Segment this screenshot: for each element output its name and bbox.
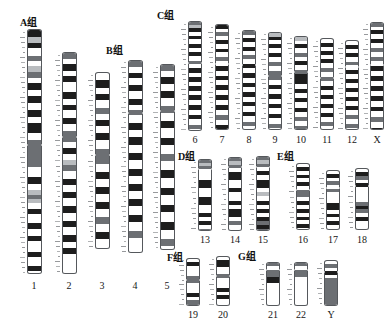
chromosome-22[interactable] <box>294 262 308 306</box>
chromosome-number-12: 12 <box>339 134 365 145</box>
centromere-notch-left <box>241 63 243 67</box>
band <box>63 105 76 111</box>
chromosome-4[interactable] <box>128 60 143 253</box>
band <box>189 77 201 82</box>
band <box>96 172 109 179</box>
band <box>243 73 255 77</box>
chromosome-1[interactable] <box>27 29 42 274</box>
chromosome-10[interactable] <box>294 36 308 130</box>
chromosome-8[interactable] <box>242 30 256 130</box>
band <box>189 105 201 109</box>
centromere-notch-left <box>215 274 217 278</box>
band-label-column <box>258 262 264 306</box>
ideogram-body <box>256 156 270 231</box>
band-label-column <box>120 60 126 253</box>
centromere-notch-right <box>269 165 271 169</box>
chromosome-3[interactable] <box>95 72 110 249</box>
chromosome-2[interactable] <box>62 52 77 274</box>
band <box>325 271 337 274</box>
band <box>321 95 333 99</box>
band <box>96 232 109 239</box>
band-label-column <box>152 64 158 250</box>
chromosome-9[interactable] <box>268 32 282 130</box>
band <box>257 171 269 175</box>
centromere-notch-right <box>228 62 230 66</box>
band <box>346 79 358 83</box>
band <box>189 95 201 99</box>
band <box>356 209 368 213</box>
band <box>346 88 358 92</box>
band <box>371 128 383 130</box>
centromere-notch-right <box>211 167 213 171</box>
group-label-a: A组 <box>20 18 37 28</box>
band <box>325 264 337 267</box>
band <box>129 110 142 115</box>
band <box>63 76 76 82</box>
band <box>356 183 368 187</box>
chromosome-12[interactable] <box>345 40 359 130</box>
band <box>243 38 255 42</box>
chromosome-19[interactable] <box>186 258 200 306</box>
band <box>189 44 201 48</box>
chromosome-21[interactable] <box>266 262 280 306</box>
chromosome-11[interactable] <box>320 38 334 130</box>
group-label-b: B组 <box>106 46 123 56</box>
band <box>371 76 383 81</box>
chromosome-y[interactable] <box>324 260 338 306</box>
band <box>161 106 174 112</box>
band <box>28 209 41 214</box>
band <box>327 174 339 177</box>
centromere-notch-right <box>383 63 385 67</box>
band <box>321 104 333 108</box>
band <box>321 43 333 47</box>
band <box>129 123 142 130</box>
band <box>269 94 281 98</box>
band <box>371 39 383 43</box>
band <box>295 53 307 57</box>
chromosome-14[interactable] <box>228 157 242 231</box>
band <box>161 154 174 161</box>
band <box>187 304 199 306</box>
chromosome-16[interactable] <box>296 163 310 230</box>
band <box>295 98 307 102</box>
chromosome-6[interactable] <box>188 21 202 131</box>
band <box>295 263 307 266</box>
band-label-column <box>288 163 294 230</box>
centromere-notch-left <box>325 186 327 190</box>
chromosome-20[interactable] <box>216 256 230 306</box>
chromosome-18[interactable] <box>355 168 369 230</box>
centromere-notch-left <box>159 109 161 113</box>
band <box>129 61 142 67</box>
centromere-notch-right <box>199 278 201 282</box>
band <box>63 165 76 171</box>
ideogram-body <box>296 163 310 230</box>
band <box>28 145 41 157</box>
chromosome-15[interactable] <box>256 156 270 231</box>
chromosome-7[interactable] <box>215 24 229 130</box>
ideogram-body <box>216 256 230 306</box>
band <box>295 273 307 276</box>
chromosome-5[interactable] <box>160 64 175 250</box>
band <box>63 136 76 142</box>
centromere-notch-left <box>214 62 216 66</box>
chromosome-17[interactable] <box>326 170 340 230</box>
band <box>63 192 76 198</box>
chromosome-13[interactable] <box>198 159 212 231</box>
band <box>96 80 109 87</box>
band <box>129 169 142 176</box>
band <box>189 115 201 119</box>
band <box>189 68 201 72</box>
ideogram-body <box>188 21 202 131</box>
band <box>295 108 307 112</box>
band <box>321 51 333 55</box>
band <box>63 221 76 228</box>
chromosome-x[interactable] <box>370 22 384 130</box>
band <box>269 53 281 57</box>
centromere-notch-right <box>279 268 281 272</box>
band <box>297 224 309 228</box>
centromere-notch-left <box>293 268 295 272</box>
chromosome-number-1: 1 <box>21 280 47 291</box>
band-label-column <box>318 170 324 230</box>
band <box>63 53 76 59</box>
band <box>346 70 358 74</box>
